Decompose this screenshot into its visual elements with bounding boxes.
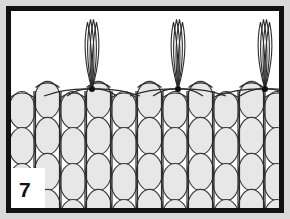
bead bbox=[188, 81, 214, 118]
bead bbox=[137, 117, 163, 154]
bead bbox=[213, 164, 239, 201]
bead bbox=[86, 81, 112, 118]
bead bbox=[239, 117, 265, 154]
bead bbox=[111, 164, 137, 201]
bead bbox=[35, 81, 61, 118]
bead bbox=[60, 92, 86, 129]
bead bbox=[60, 128, 86, 165]
bead bbox=[111, 92, 137, 129]
beadwork-figure: 7 bbox=[0, 0, 290, 219]
figure-canvas: 7 bbox=[0, 0, 290, 219]
bead bbox=[162, 128, 188, 165]
bead bbox=[60, 164, 86, 201]
knot-dot bbox=[89, 86, 95, 92]
bead bbox=[239, 81, 265, 118]
bead bbox=[86, 117, 112, 154]
bead bbox=[9, 128, 35, 165]
knot-dot bbox=[175, 86, 181, 92]
bead bbox=[162, 92, 188, 129]
bead bbox=[111, 128, 137, 165]
bead bbox=[213, 128, 239, 165]
bead bbox=[9, 92, 35, 129]
knot-dot bbox=[262, 86, 268, 92]
bead bbox=[35, 117, 61, 154]
bead bbox=[213, 92, 239, 129]
bead bbox=[239, 153, 265, 190]
bead bbox=[137, 81, 163, 118]
figure-number-label: 7 bbox=[19, 178, 31, 201]
bead-grid bbox=[9, 81, 290, 219]
bead bbox=[86, 153, 112, 190]
bead bbox=[188, 153, 214, 190]
bead bbox=[162, 164, 188, 201]
bead bbox=[137, 153, 163, 190]
bead bbox=[188, 117, 214, 154]
